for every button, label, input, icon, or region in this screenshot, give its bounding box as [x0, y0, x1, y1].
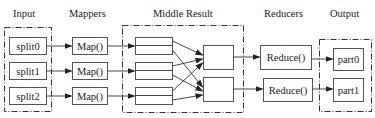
- label-input: Input: [13, 8, 35, 19]
- map-box-0: Map(): [73, 38, 108, 55]
- part-box-1: part1: [334, 79, 364, 102]
- split-label: split2: [16, 91, 39, 102]
- merged-box-1: [204, 78, 234, 102]
- merged-box-0: [204, 46, 234, 70]
- split-label: split1: [16, 66, 39, 77]
- split-box-1: split1: [10, 63, 47, 80]
- intermediate-box-0: [136, 38, 173, 55]
- label-middle-result: Middle Result: [153, 8, 213, 19]
- label-output: Output: [330, 8, 359, 19]
- part-label: part0: [338, 54, 360, 65]
- mapreduce-diagram: Input Mappers Middle Result Reducers Out…: [0, 0, 375, 118]
- map-box-1: Map(): [73, 63, 108, 80]
- shuffle-arrows: [173, 41, 203, 100]
- reduce-label: Reduce(): [269, 85, 308, 97]
- label-mappers: Mappers: [69, 8, 106, 19]
- map-box-2: Map(): [73, 88, 108, 105]
- split-box-0: split0: [10, 38, 47, 55]
- part-label: part1: [338, 85, 360, 96]
- label-reducers: Reducers: [264, 8, 303, 19]
- reduce-box-0: Reduce(): [261, 46, 312, 70]
- map-label: Map(): [77, 66, 104, 78]
- split-label: split0: [16, 41, 39, 52]
- map-label: Map(): [77, 41, 104, 53]
- split-box-2: split2: [10, 88, 47, 105]
- intermediate-box-2: [136, 88, 173, 105]
- part-box-0: part0: [334, 49, 364, 71]
- intermediate-box-1: [136, 63, 173, 80]
- reduce-box-1: Reduce(): [264, 79, 313, 102]
- map-label: Map(): [77, 91, 104, 103]
- reduce-label: Reduce(): [267, 52, 306, 64]
